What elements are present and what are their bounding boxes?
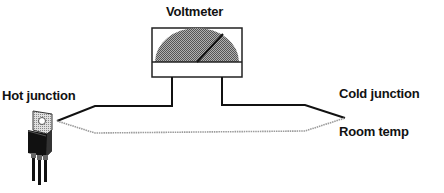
wire-a-right: [222, 77, 345, 118]
voltmeter: [152, 28, 242, 77]
wire-b: [57, 118, 345, 133]
voltmeter-label: Voltmeter: [166, 4, 223, 19]
transistor: [28, 111, 52, 185]
cold-junction-label: Cold junction: [339, 86, 419, 101]
room-temp-label: Room temp: [339, 124, 409, 139]
hot-junction-label: Hot junction: [2, 88, 75, 103]
